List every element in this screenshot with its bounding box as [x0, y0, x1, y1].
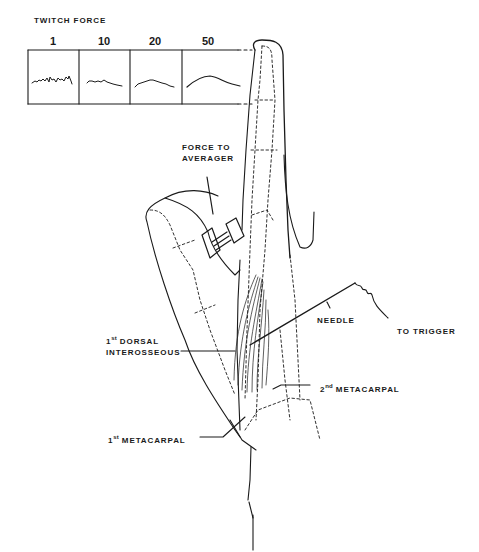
- trace-20: [135, 80, 174, 87]
- trigger-wire: [355, 283, 388, 318]
- to-trigger-label: TO TRIGGER: [397, 326, 456, 337]
- averager-label-line2: AVERAGER: [182, 153, 234, 164]
- twitch-force-title: TWITCH FORCE: [34, 15, 106, 26]
- interosseous-text: INTEROSSEOUS: [106, 347, 180, 358]
- trace-50: [187, 76, 240, 87]
- muscle-fibers: [234, 275, 269, 392]
- dorsal-interosseous-label: 1st DORSAL INTEROSSEOUS: [106, 333, 180, 358]
- meta2-pointer: [273, 385, 310, 389]
- panel-label-50: 50: [183, 35, 233, 47]
- force-to-averager-label: FORCE TO AVERAGER: [182, 142, 234, 164]
- second-metacarpal-label: 2nd METACARPAL: [320, 381, 400, 395]
- hand-diagram: [0, 0, 479, 552]
- panel-label-1: 1: [28, 35, 78, 47]
- dorsal-text: DORSAL: [117, 337, 159, 346]
- needle-label: NEEDLE: [317, 315, 355, 326]
- trace-10: [87, 80, 122, 86]
- meta2-sup: nd: [325, 383, 332, 389]
- wrist: [230, 420, 256, 450]
- index-finger-outline: [253, 40, 290, 258]
- panel-label-20: 20: [130, 35, 180, 47]
- meta1-text: METACARPAL: [119, 436, 186, 445]
- first-metacarpal-label: 1st METACARPAL: [108, 432, 186, 446]
- panel-label-10: 10: [79, 35, 129, 47]
- thumb-outline: [146, 191, 240, 437]
- twitch-force-panels: [28, 50, 252, 104]
- force-to-label-line1: FORCE TO: [182, 142, 234, 153]
- meta2-text: METACARPAL: [333, 385, 400, 394]
- trace-1: [32, 76, 72, 84]
- force-transducer: [202, 218, 244, 258]
